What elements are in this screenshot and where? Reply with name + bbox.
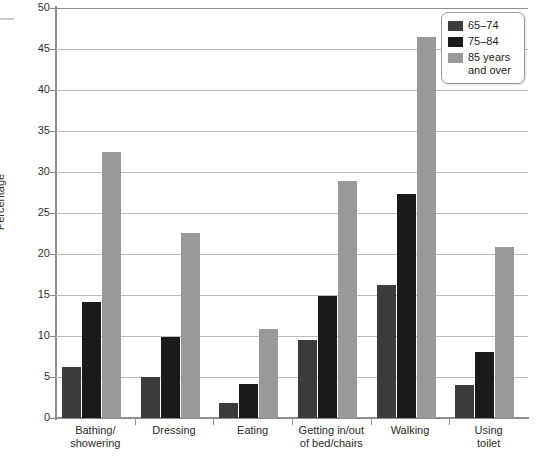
bar-group xyxy=(141,8,200,418)
bar xyxy=(102,152,121,419)
bar xyxy=(298,340,317,418)
bar xyxy=(417,37,436,418)
y-tick-mark xyxy=(50,90,55,91)
y-tick-mark xyxy=(50,377,55,378)
bar xyxy=(377,285,396,418)
y-tick: 35 xyxy=(14,125,50,136)
y-tick: 5 xyxy=(14,371,50,382)
legend-item: 75–84 xyxy=(448,35,518,48)
bar xyxy=(338,181,357,418)
y-tick-mark xyxy=(50,254,55,255)
y-tick-mark xyxy=(50,213,55,214)
bar xyxy=(397,194,416,418)
bar xyxy=(455,385,474,418)
bar xyxy=(161,337,180,418)
bar xyxy=(239,384,258,418)
y-tick-mark xyxy=(50,8,55,9)
bar xyxy=(259,329,278,418)
legend-label: 75–84 xyxy=(468,35,499,48)
x-axis-category-label: Dressing xyxy=(135,424,214,437)
x-axis-category-label: Walking xyxy=(371,424,450,437)
x-axis-category-label: Bathing/showering xyxy=(56,424,135,450)
bar xyxy=(475,352,494,418)
legend-label: 85 years and over xyxy=(468,51,511,77)
y-tick-label: 10 xyxy=(24,330,50,341)
x-axis-tick xyxy=(449,418,450,425)
bar xyxy=(219,403,238,418)
y-tick-label: 0 xyxy=(24,412,50,423)
x-axis-tick xyxy=(292,418,293,425)
x-axis-tick xyxy=(213,418,214,425)
legend-item: 65–74 xyxy=(448,19,518,32)
y-tick: 20 xyxy=(14,248,50,259)
y-tick-label: 20 xyxy=(24,248,50,259)
bar xyxy=(495,247,514,418)
y-tick-mark xyxy=(50,172,55,173)
y-tick-mark xyxy=(50,336,55,337)
y-tick: 15 xyxy=(14,289,50,300)
legend-swatch-icon xyxy=(448,37,463,47)
y-tick-label: 45 xyxy=(24,43,50,54)
x-axis-category-label: Getting in/outof bed/chairs xyxy=(292,424,371,450)
y-tick-label: 50 xyxy=(24,2,50,13)
y-tick: 25 xyxy=(14,207,50,218)
scan-artifact-text: . . . . . . xyxy=(300,0,500,7)
x-axis-category-label: Eating xyxy=(213,424,292,437)
y-tick-mark xyxy=(50,131,55,132)
bar-chart: . . . . . . Percentage 05101520253035404… xyxy=(0,0,536,458)
legend-swatch-icon xyxy=(448,53,463,63)
bar-group xyxy=(298,8,357,418)
bar-group xyxy=(219,8,278,418)
y-tick-label: 30 xyxy=(24,166,50,177)
legend-label: 65–74 xyxy=(468,19,499,32)
y-tick: 40 xyxy=(14,84,50,95)
y-tick: 10 xyxy=(14,330,50,341)
y-tick-label: 40 xyxy=(24,84,50,95)
y-tick: 45 xyxy=(14,43,50,54)
y-tick-mark xyxy=(50,295,55,296)
y-axis-title: Percentage xyxy=(0,174,6,230)
y-tick-mark xyxy=(50,418,55,419)
y-tick-label: 35 xyxy=(24,125,50,136)
y-tick: 30 xyxy=(14,166,50,177)
x-axis-tick xyxy=(135,418,136,425)
y-tick: 50 xyxy=(14,2,50,13)
bar xyxy=(318,296,337,418)
bar xyxy=(82,302,101,418)
legend-swatch-icon xyxy=(448,21,463,31)
y-tick-label: 25 xyxy=(24,207,50,218)
y-tick-label: 15 xyxy=(24,289,50,300)
scan-edge-mark xyxy=(0,18,14,20)
y-tick-label: 5 xyxy=(24,371,50,382)
bar-group xyxy=(377,8,436,418)
y-tick: 0 xyxy=(14,412,50,423)
legend: 65–7475–8485 years and over xyxy=(441,12,525,84)
bar xyxy=(141,377,160,418)
bar xyxy=(181,233,200,418)
bar-group xyxy=(62,8,121,418)
y-tick-mark xyxy=(50,49,55,50)
legend-item: 85 years and over xyxy=(448,51,518,77)
x-axis-tick xyxy=(371,418,372,425)
bar xyxy=(62,367,81,418)
x-axis-category-label: Usingtoilet xyxy=(449,424,528,450)
